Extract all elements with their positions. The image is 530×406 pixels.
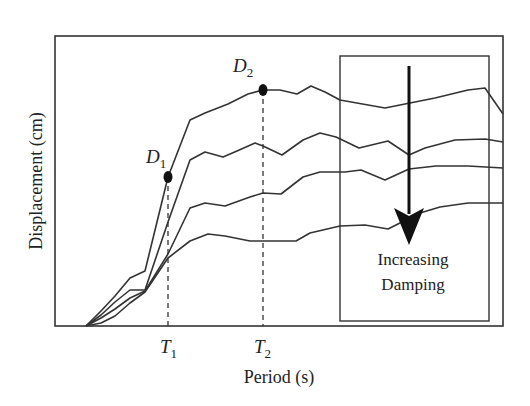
y-axis-label: Displacement (cm) [26, 112, 47, 249]
annotation-line-1: Increasing [378, 250, 449, 269]
point-marker-d2 [259, 84, 268, 96]
point-marker-d1 [164, 171, 173, 183]
peak-markers: D1D2 [145, 55, 268, 183]
point-label-d1: D1 [145, 146, 166, 171]
displacement-period-chart: Increasing Damping D1D2 T1T2 Period (s) … [0, 0, 530, 406]
x-axis-label: Period (s) [244, 367, 315, 388]
curve-3 [86, 166, 503, 326]
x-tick-labels: T1T2 [160, 336, 271, 361]
point-label-d2: D2 [232, 55, 253, 80]
x-tick-t1: T1 [160, 336, 177, 361]
annotation-line-2: Damping [381, 275, 445, 294]
x-tick-t2: T2 [254, 336, 271, 361]
